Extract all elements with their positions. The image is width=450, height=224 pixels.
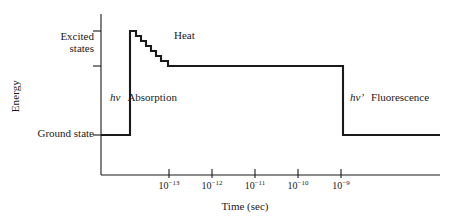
x-tick-label-3-exponent: −10 <box>298 179 309 187</box>
fluorescence-process-label: Fluorescence <box>371 91 429 103</box>
x-tick-label-0-mantissa: 10 <box>159 180 169 191</box>
fluorescence-annotation: hν’Fluorescence <box>350 91 429 103</box>
absorption-photon-symbol: hν <box>110 91 120 103</box>
x-tick-label-4: 10−9 <box>332 180 349 191</box>
x-tick-label-3: 10−10 <box>288 180 309 191</box>
excited-states-label-line2: states <box>18 42 94 54</box>
y-axis-title: Energy <box>9 68 21 124</box>
x-tick-label-1-exponent: −12 <box>212 179 223 187</box>
absorption-annotation: hνAbsorption <box>110 91 177 103</box>
x-tick-label-4-exponent: −9 <box>342 179 349 187</box>
fluorescence-photon-symbol: hν’ <box>350 91 364 103</box>
x-axis-title: Time (sec) <box>180 200 310 212</box>
x-tick-label-2: 10−11 <box>245 180 266 191</box>
x-tick-label-0: 10−13 <box>159 180 180 191</box>
excited-states-label-line1: Excited <box>18 30 94 42</box>
x-tick-label-2-mantissa: 10 <box>245 180 255 191</box>
x-tick-label-1: 10−12 <box>202 180 223 191</box>
excited-states-label: Excited states <box>18 30 94 55</box>
energy-trace <box>101 31 440 135</box>
x-tick-label-2-exponent: −11 <box>255 179 266 187</box>
x-tick-label-4-mantissa: 10 <box>332 180 342 191</box>
energy-time-diagram: Energy Excited states Ground state Heat … <box>0 0 450 224</box>
x-axis-ticks <box>169 169 341 178</box>
absorption-process-label: Absorption <box>127 91 177 103</box>
heat-annotation: Heat <box>174 29 195 41</box>
ground-state-label: Ground state <box>10 127 94 139</box>
x-tick-label-1-mantissa: 10 <box>202 180 212 191</box>
x-tick-label-0-exponent: −13 <box>169 179 180 187</box>
x-tick-label-3-mantissa: 10 <box>288 180 298 191</box>
